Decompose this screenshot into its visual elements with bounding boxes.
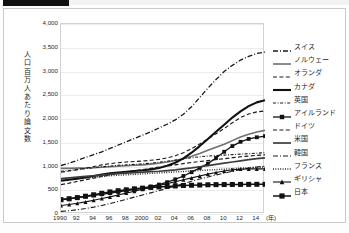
x-axis-unit-label: (年)	[266, 214, 276, 222]
legend-item-label: フランス	[294, 161, 322, 170]
series-marker	[107, 189, 112, 194]
legend-symbol-icon	[272, 147, 292, 157]
chart-legend: スイスノルウェーオランダカナダ英国アイルランドドイツ米国韓国フランスギリシャ日本	[272, 40, 349, 198]
legend-item-3[interactable]: オランダ	[272, 66, 349, 79]
legend-item-12[interactable]: 日本	[272, 185, 349, 198]
series-marker	[156, 184, 161, 189]
series-line	[61, 166, 265, 211]
x-axis-tick-labels: 199092949698200002040608101214	[60, 214, 264, 226]
series-marker	[239, 140, 243, 144]
legend-symbol-icon	[272, 173, 292, 183]
series-marker	[75, 195, 80, 200]
legend-symbol-icon	[272, 68, 292, 78]
legend-symbol-icon	[272, 160, 292, 170]
series-marker	[132, 186, 137, 191]
legend-item-label: スイス	[294, 42, 315, 51]
series-marker	[238, 182, 243, 187]
legend-item-11[interactable]: ギリシャ	[272, 172, 349, 185]
series-marker	[205, 182, 210, 187]
legend-item-label: 英国	[294, 95, 308, 104]
legend-symbol-icon	[272, 134, 292, 144]
series-marker	[214, 182, 219, 187]
y-axis-tick: 1,000	[14, 163, 58, 169]
series-marker	[222, 182, 227, 187]
y-axis-tick: 2,500	[14, 91, 58, 97]
legend-symbol-icon	[272, 94, 292, 104]
series-line	[61, 167, 265, 180]
series-marker	[255, 135, 259, 139]
legend-symbol-icon	[272, 42, 292, 52]
legend-item-8[interactable]: 米国	[272, 132, 349, 145]
series-marker	[189, 183, 194, 188]
series-marker	[254, 182, 259, 187]
series-marker	[116, 188, 121, 193]
legend-item-label: カナダ	[294, 82, 315, 91]
legend-item-2[interactable]: ノルウェー	[272, 53, 349, 66]
chart-frame: 人口百万人あたり論文数 05001,0001,5002,0002,5003,00…	[3, 8, 346, 223]
series-marker	[124, 187, 129, 192]
series-marker	[83, 194, 88, 199]
legend-item-5[interactable]: 英国	[272, 93, 349, 106]
series-line	[61, 130, 265, 168]
y-axis-tick: 4,000	[14, 20, 58, 26]
legend-symbol-icon	[272, 55, 292, 65]
legend-item-6[interactable]: アイルランド	[272, 106, 349, 119]
legend-item-1[interactable]: スイス	[272, 40, 349, 53]
y-axis-tick: 2,000	[14, 115, 58, 121]
legend-symbol-icon	[272, 187, 292, 197]
legend-item-label: ドイツ	[294, 121, 315, 130]
series-marker	[263, 182, 266, 187]
series-marker	[181, 183, 186, 188]
y-axis-tick: 3,500	[14, 44, 58, 50]
series-marker	[91, 192, 96, 197]
series-marker	[230, 182, 235, 187]
legend-item-label: ノルウェー	[294, 55, 329, 64]
legend-item-label: 韓国	[294, 148, 308, 157]
legend-item-4[interactable]: カナダ	[272, 80, 349, 93]
legend-item-label: 米国	[294, 134, 308, 143]
series-marker	[263, 134, 265, 138]
series-marker	[173, 183, 178, 188]
legend-item-7[interactable]: ドイツ	[272, 119, 349, 132]
y-axis-tick-labels: 05001,0001,5002,0002,5003,0003,5004,000	[10, 23, 58, 213]
header-bar-fragment	[3, 0, 69, 6]
legend-item-label: アイルランド	[294, 108, 336, 117]
legend-symbol-icon	[272, 121, 292, 131]
series-marker	[222, 150, 226, 154]
plot-area	[60, 23, 264, 213]
series-lines	[61, 24, 265, 214]
series-marker	[67, 196, 72, 201]
series-marker	[197, 183, 202, 188]
series-marker	[246, 182, 251, 187]
chart-screenshot: 人口百万人あたり論文数 05001,0001,5002,0002,5003,00…	[0, 0, 349, 233]
x-axis-tick: 14	[246, 214, 266, 222]
legend-item-10[interactable]: フランス	[272, 159, 349, 172]
header-bar-tail	[69, 0, 349, 5]
legend-symbol-icon	[272, 108, 292, 118]
legend-symbol-icon	[272, 81, 292, 91]
series-marker	[61, 197, 64, 202]
y-axis-tick: 3,000	[14, 68, 58, 74]
series-marker	[165, 184, 170, 189]
legend-item-9[interactable]: 韓国	[272, 146, 349, 159]
series-marker	[140, 186, 145, 191]
y-axis-tick: 500	[14, 186, 58, 192]
series-marker	[182, 174, 186, 178]
series-marker	[99, 191, 104, 196]
series-line	[61, 52, 265, 166]
legend-item-label: 日本	[294, 187, 308, 196]
legend-item-label: ギリシャ	[294, 174, 322, 183]
y-axis-tick: 1,500	[14, 139, 58, 145]
legend-item-label: オランダ	[294, 68, 322, 77]
series-marker	[247, 137, 251, 141]
series-marker	[148, 185, 153, 190]
series-marker	[230, 144, 234, 148]
